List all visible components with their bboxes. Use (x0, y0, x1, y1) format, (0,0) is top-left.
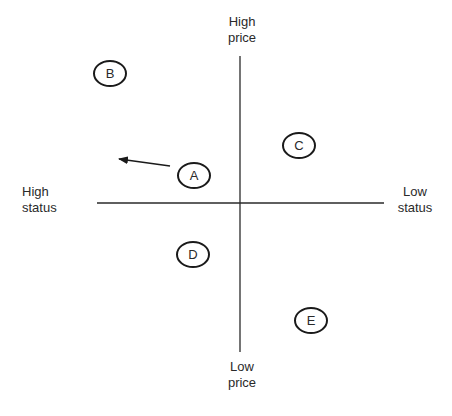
brand-point-c-label: C (294, 138, 303, 153)
high-status-label-line2: status (22, 200, 70, 216)
brand-point-b: B (93, 60, 127, 87)
brand-point-a: A (177, 162, 211, 189)
low-status-label-line2: status (390, 200, 440, 216)
low-price-label: Low price (222, 359, 262, 391)
high-price-label-line2: price (222, 30, 262, 46)
low-status-label: Low status (390, 184, 440, 216)
brand-point-e-label: E (307, 313, 316, 328)
high-status-label-line1: High (22, 184, 70, 200)
high-status-label: High status (22, 184, 70, 216)
brand-point-e: E (294, 307, 328, 334)
low-price-label-line1: Low (222, 359, 262, 375)
brand-point-d: D (176, 241, 210, 268)
brand-point-b-label: B (106, 66, 115, 81)
brand-point-d-label: D (188, 247, 197, 262)
brand-point-c: C (282, 132, 316, 159)
brand-point-a-label: A (190, 168, 199, 183)
low-price-label-line2: price (222, 375, 262, 391)
low-status-label-line1: Low (390, 184, 440, 200)
high-price-label: High price (222, 14, 262, 46)
movement-arrow (119, 159, 170, 166)
high-price-label-line1: High (222, 14, 262, 30)
